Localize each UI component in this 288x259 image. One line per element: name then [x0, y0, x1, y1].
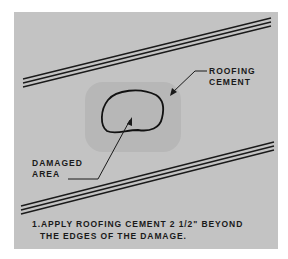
roofing-cement-label: ROOFING CEMENT	[209, 66, 256, 88]
roofing-cement-patch	[85, 82, 181, 152]
damaged-area-label: DAMAGED AREA	[32, 158, 83, 180]
caption-line-2: THE EDGES OF THE DAMAGE.	[32, 230, 243, 242]
instruction-caption: 1.APPLY ROOFING CEMENT 2 1/2" BEYOND THE…	[32, 218, 243, 242]
caption-line-1: 1.APPLY ROOFING CEMENT 2 1/2" BEYOND	[32, 219, 243, 229]
